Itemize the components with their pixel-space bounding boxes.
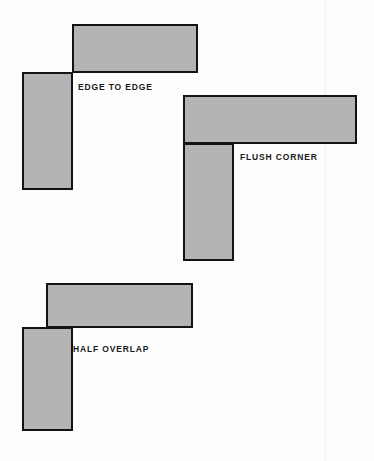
flush-corner-vertical-bar — [183, 143, 234, 261]
half-overlap-label: HALF OVERLAP — [73, 345, 149, 354]
edge-to-edge-horizontal-bar — [72, 24, 198, 73]
diagram-canvas: EDGE TO EDGEFLUSH CORNERHALF OVERLAP — [0, 0, 374, 461]
flush-corner-label: FLUSH CORNER — [240, 153, 318, 162]
edge-to-edge-vertical-bar — [22, 72, 73, 190]
half-overlap-horizontal-bar — [46, 283, 193, 328]
half-overlap-vertical-bar — [22, 327, 73, 431]
scan-streak — [324, 0, 327, 461]
flush-corner-horizontal-bar — [183, 95, 357, 144]
edge-to-edge-label: EDGE TO EDGE — [78, 83, 153, 92]
